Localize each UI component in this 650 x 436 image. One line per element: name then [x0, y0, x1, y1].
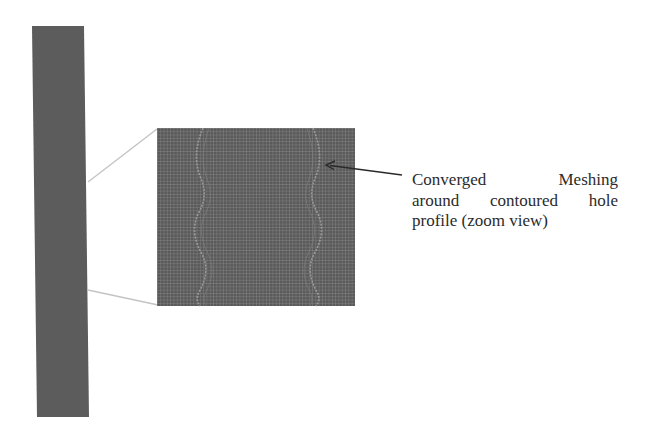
caption-line-1: Converged Meshing — [412, 170, 618, 191]
caption-line-2: around contoured hole — [412, 191, 618, 212]
zoom-connector-top — [88, 129, 157, 182]
figure-caption: Converged Meshing around contoured hole … — [412, 170, 618, 232]
zoom-view-mesh — [157, 128, 355, 306]
specimen-strip — [32, 26, 89, 417]
mesh-region — [157, 128, 355, 306]
zoom-connector-bottom — [88, 290, 158, 305]
caption-line-3: profile (zoom view) — [412, 211, 618, 232]
